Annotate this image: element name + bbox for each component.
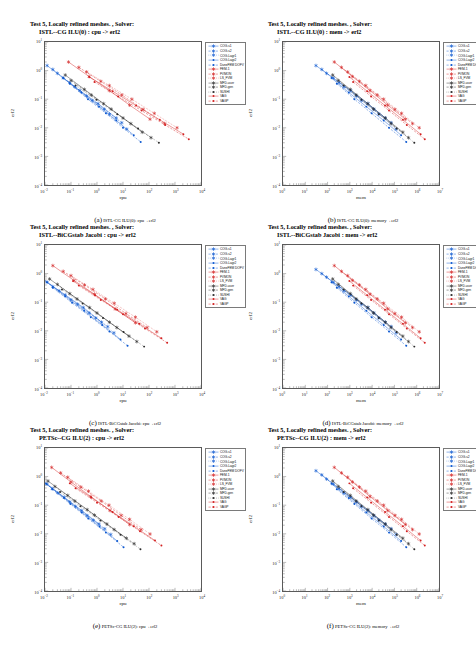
y-tick-label: 10−1 (27, 96, 42, 102)
panel-title-line1: Test 5, Locally refined meshes. , Solver… (30, 20, 134, 27)
x-axis-label: mem (282, 601, 440, 606)
axis-ticks (283, 42, 439, 185)
legend-label: FVMON (219, 478, 232, 482)
legend-label: COG-s2 (219, 252, 232, 256)
y-tick-label: 10−2 (265, 531, 280, 537)
y-tick-label: 10−1 (265, 502, 280, 508)
axes-area-c: 10−210−110010110210310410110010−110−210−… (6, 240, 244, 410)
legend-sample-dashed-star (446, 49, 457, 53)
legend-sample-dashed-star (208, 72, 219, 76)
legend-item[interactable]: VAGP (446, 302, 476, 307)
series-vag (348, 76, 421, 135)
legend-label: MFD-user (457, 284, 472, 288)
x-tick-label: 106 (414, 594, 420, 600)
legend-item[interactable]: VAGP (446, 99, 476, 104)
panel-title-e: Test 5, Locally refined meshes. , Solver… (6, 426, 244, 441)
y-tick-label: 10−3 (265, 154, 280, 160)
y-tick-label: 101 (27, 241, 42, 247)
legend-sample-solid-dot (446, 94, 457, 98)
legend-sample-solid-dot (446, 464, 457, 468)
legend-sample-dotted-star (208, 459, 219, 463)
legend-sample-dashed-star (446, 275, 457, 279)
legend-sample-dotted-star (446, 482, 457, 486)
legend-label: MFD-user (219, 487, 234, 491)
legend-label: FEM-1 (219, 270, 230, 274)
legend-sample-dashed-dot (446, 302, 457, 306)
legend-label: VAGP (219, 505, 229, 509)
legend-sample-dashed-star (208, 288, 219, 292)
x-tick-label: 101 (302, 391, 308, 397)
x-tick-label: 105 (392, 391, 398, 397)
legend-item[interactable]: VAGP (208, 505, 244, 510)
plot-frame-a (44, 41, 202, 186)
y-tick-label: 10−2 (265, 328, 280, 334)
x-axis-label: cpu (44, 398, 202, 403)
y-tick-label: 10−2 (27, 125, 42, 131)
legend-sample-solid-star (208, 81, 219, 85)
legend-label: LS_FVM (457, 279, 471, 283)
legend-sample-solid-dot (208, 94, 219, 98)
y-tick-label: 10−1 (27, 502, 42, 508)
legend-sample-dotted-dot (208, 90, 219, 94)
y-tick-label: 101 (27, 444, 42, 450)
legend-sample-dashed-star (208, 491, 219, 495)
legend-label: MFD-user (219, 81, 234, 85)
legend-sample-dashed-star (208, 49, 219, 53)
axis-ticks (45, 245, 201, 388)
legend-item[interactable]: VAGP (208, 99, 244, 104)
legend-item[interactable]: VAGP (446, 505, 476, 510)
panel-title-line2: ISTL--BiCGstab Jacobi : cpu -> erl2 (30, 231, 244, 239)
y-tick-label: 10−3 (265, 560, 280, 566)
series-mfd-user (331, 479, 404, 540)
legend-sample-solid-dot (446, 58, 457, 62)
panel-title-line1: Test 5, Locally refined meshes. , Solver… (268, 223, 372, 230)
legend-sample-dotted-dot (208, 496, 219, 500)
legend-label: FVMON (457, 275, 470, 279)
legend-sample-dotted-star (446, 53, 457, 57)
legend-sample-solid-dot (446, 500, 457, 504)
legend-item[interactable]: VAGP (208, 302, 244, 307)
legend-b: COG-s1COG-s2COG-Lagr1COG-Lagr2DuneFEM DO… (443, 42, 476, 105)
panel-title-line2: PETSc--CG ILU(2) : mem -> erl2 (268, 434, 476, 442)
series-cog-lagr2 (45, 483, 118, 542)
series-cog-lagr1 (325, 71, 398, 130)
legend-sample-dotted-dot (446, 293, 457, 297)
panel-title-line1: Test 5, Locally refined meshes. , Solver… (30, 426, 134, 433)
x-tick-label: 101 (120, 391, 126, 397)
y-tick-label: 10−4 (265, 183, 280, 189)
y-tick-label: 10−4 (265, 386, 280, 392)
legend-sample-solid-star (446, 450, 457, 454)
legend-label: LS_FVM (219, 279, 233, 283)
x-tick-label: 102 (324, 188, 330, 194)
legend-sample-solid-star (446, 270, 457, 274)
x-tick-label: 102 (146, 391, 152, 397)
legend-sample-solid-star (208, 450, 219, 454)
legend-label: COG-Lagr2 (457, 261, 475, 265)
legend-c: COG-s1COG-s2COG-Lagr1COG-Lagr2DuneFEM DO… (205, 245, 246, 308)
legend-sample-dashed-star (446, 491, 457, 495)
caption-tag: (f) (327, 622, 334, 630)
panel-title-line2: PETSc--CG ILU(2) : cpu -> erl2 (30, 434, 244, 442)
x-axis-label: cpu (44, 601, 202, 606)
panel-title-line1: Test 5, Locally refined meshes. , Solver… (268, 20, 372, 27)
legend-label: MFD-gen (219, 491, 234, 495)
x-tick-label: 101 (302, 188, 308, 194)
legend-label: SUSHI (219, 90, 230, 94)
x-tick-label: 10−1 (66, 188, 74, 194)
y-tick-label: 10−1 (265, 299, 280, 305)
legend-label: SUSHI (457, 90, 468, 94)
legend-sample-solid-star (208, 247, 219, 251)
legend-sample-dashed-star (446, 252, 457, 256)
y-tick-label: 10−1 (265, 96, 280, 102)
legend-sample-dashed-dot (446, 505, 457, 509)
series-dunefem-dofv (52, 287, 129, 347)
panel-title-a: Test 5, Locally refined meshes. , Solver… (6, 20, 244, 35)
legend-label: VAG (457, 297, 465, 301)
legend-sample-dashed-star (446, 455, 457, 459)
legend-label: VAGP (457, 505, 467, 509)
legend-sample-solid-star (446, 44, 457, 48)
legend-sample-solid-star (446, 67, 457, 71)
legend-a: COG-s1COG-s2COG-Lagr1COG-Lagr2DuneFEM DO… (205, 42, 246, 105)
legend-sample-dashed-star (446, 72, 457, 76)
legend-label: VAG (219, 500, 227, 504)
